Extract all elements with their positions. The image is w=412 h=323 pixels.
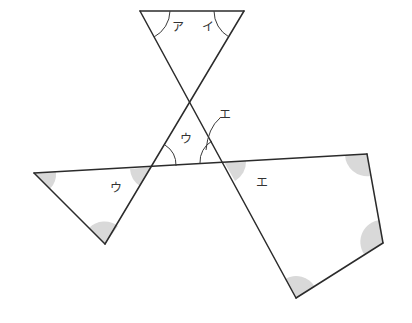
arc-angle-a [154,11,170,37]
edges [34,11,383,298]
label-center-angle-u: ウ [180,132,192,146]
edge-quad-bottom [296,243,383,298]
arc-angle-u [165,145,176,166]
label-left-triangle-u: ウ [110,181,122,195]
arc-angle-i [214,11,229,37]
label-center-pointer-e: エ [219,108,231,122]
edge-diag-right-to-tri-bottom [105,11,244,244]
shade-quad-top-right [345,154,370,176]
geometry-diagram: ア イ ウ エ ウ エ [0,0,412,323]
edge-left-triangle-left [34,173,105,244]
arc-angle-e [200,141,212,163]
label-angle-a: ア [172,20,184,34]
label-quad-e: エ [256,176,268,190]
label-angle-i: イ [202,20,214,34]
shade-left-triangle-left [34,172,56,189]
